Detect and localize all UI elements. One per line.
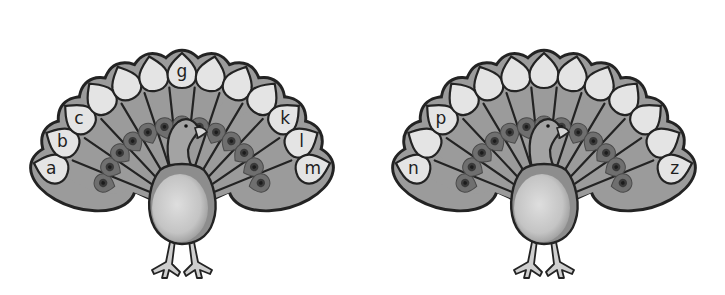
left-peacock-illustration: abcgklm xyxy=(0,0,362,295)
feather-letter: m xyxy=(304,158,321,178)
right-peacock-illustration: npz xyxy=(362,0,724,295)
feather-letter: c xyxy=(74,108,83,128)
feather-letter: k xyxy=(280,108,290,128)
bird-eye-icon xyxy=(184,124,188,128)
right-peacock: npz xyxy=(362,0,724,295)
feather-letter: z xyxy=(670,158,679,178)
feather-letter: l xyxy=(299,131,304,151)
feather-letter: g xyxy=(177,61,188,81)
bird-eye-icon xyxy=(546,124,550,128)
feather-letter: b xyxy=(57,131,68,151)
worksheet-canvas: abcgklm npz xyxy=(0,0,725,295)
feather-letter: p xyxy=(435,108,446,128)
feather-letter: n xyxy=(408,158,419,178)
left-peacock: abcgklm xyxy=(0,0,362,295)
feather-letter: a xyxy=(46,158,56,178)
